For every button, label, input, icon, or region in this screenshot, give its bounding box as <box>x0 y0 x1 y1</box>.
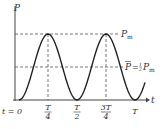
svg-text:3T: 3T <box>101 103 112 112</box>
tick-label-period: T <box>132 107 138 116</box>
x-axis-label: t <box>151 95 155 105</box>
tick-label-three-quarter: 3T 4 <box>101 103 112 121</box>
power-vs-time-diagram: P t Pm P = 1 2 Pm t = 0 T 4 T 2 3T 4 T <box>0 0 164 129</box>
diagram-canvas: P t Pm P = 1 2 Pm t = 0 T 4 T 2 3T 4 T <box>0 0 164 129</box>
svg-text:=: = <box>132 63 139 72</box>
average-label: P = 1 2 Pm <box>124 62 155 74</box>
svg-text:2: 2 <box>138 67 142 72</box>
svg-text:2: 2 <box>73 112 79 121</box>
svg-text:T: T <box>45 103 51 112</box>
tick-label-quarter: T 4 <box>44 103 51 121</box>
x-axis-arrow-icon <box>146 98 150 103</box>
tick-label-0: t = 0 <box>2 107 22 116</box>
svg-text:4: 4 <box>102 112 108 121</box>
svg-text:T: T <box>74 103 80 112</box>
svg-text:Pm: Pm <box>142 62 155 73</box>
y-axis-label: P <box>13 3 21 13</box>
svg-text:4: 4 <box>44 112 50 121</box>
peak-label: Pm <box>120 29 133 40</box>
tick-label-half: T 2 <box>73 103 80 121</box>
svg-text:P: P <box>124 62 132 72</box>
